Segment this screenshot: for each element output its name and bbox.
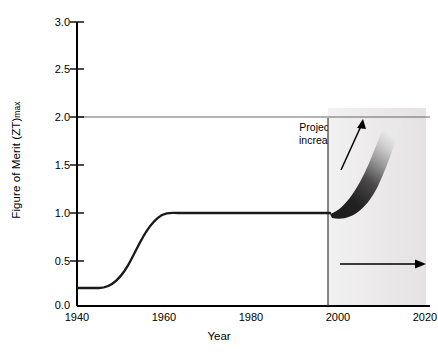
thermoelectric-figure-of-merit-chart: Figure of Merit (ZT)max 3.0 2.5 2.0 1.5 … bbox=[0, 0, 438, 358]
plot-area-svg bbox=[0, 0, 438, 358]
zt-historical-curve bbox=[78, 213, 330, 288]
